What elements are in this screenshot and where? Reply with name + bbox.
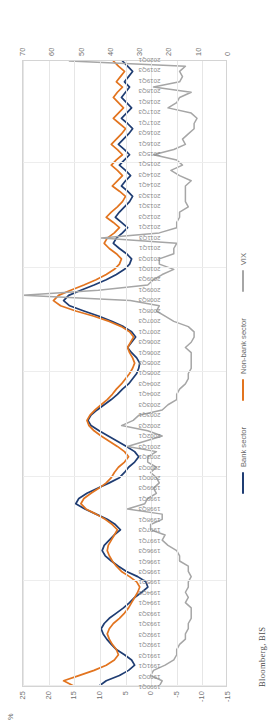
legend-item[interactable]: VIX bbox=[239, 253, 248, 292]
primary-axis-tick-label: 15 bbox=[69, 691, 78, 699]
primary-axis-tick-label: 10 bbox=[94, 691, 103, 699]
gridline-vertical bbox=[23, 476, 226, 477]
chart-figure: % 2520151050-5-10-15 1990Q11990Q31991Q11… bbox=[0, 0, 269, 723]
secondary-axis-tick-label: 60 bbox=[47, 48, 56, 56]
legend-swatch-icon bbox=[242, 270, 244, 292]
series-line-non-bank-sector bbox=[53, 61, 139, 686]
gridline-horizontal bbox=[100, 61, 101, 686]
gridline-horizontal bbox=[202, 61, 203, 686]
secondary-axis-tick-label: 0 bbox=[223, 52, 232, 56]
primary-axis-tick-label: 5 bbox=[120, 691, 129, 695]
legend-label: Bank sector bbox=[239, 427, 248, 467]
series-line-bank-sector bbox=[64, 61, 148, 686]
primary-axis-tick-label: 0 bbox=[146, 691, 155, 695]
primary-y-axis: 2520151050-5-10-15 bbox=[22, 687, 227, 723]
plot-area bbox=[22, 60, 227, 687]
gridline-vertical bbox=[23, 685, 226, 686]
primary-axis-tick-label: -10 bbox=[197, 691, 206, 702]
gridline-horizontal bbox=[23, 61, 24, 686]
secondary-axis-tick-label: 20 bbox=[164, 48, 173, 56]
gridline-vertical bbox=[23, 163, 226, 164]
gridline-horizontal bbox=[177, 61, 178, 686]
series-lines bbox=[23, 61, 226, 686]
secondary-y-axis: 706050403020100 bbox=[22, 20, 227, 60]
plot-inner bbox=[23, 61, 226, 686]
percent-axis-symbol: % bbox=[6, 713, 15, 720]
gridline-horizontal bbox=[49, 61, 50, 686]
legend-item[interactable]: Bank sector bbox=[239, 427, 248, 494]
gridline-horizontal bbox=[126, 61, 127, 686]
gridline-horizontal bbox=[151, 61, 152, 686]
chart-legend: Bank sectorNon-bank sectorVIX bbox=[232, 60, 254, 687]
secondary-axis-tick-label: 50 bbox=[76, 48, 85, 56]
primary-axis-tick-label: -5 bbox=[171, 691, 180, 698]
secondary-axis-tick-label: 40 bbox=[105, 48, 114, 56]
primary-axis-tick-label: 25 bbox=[18, 691, 27, 699]
secondary-axis-tick-label: 10 bbox=[193, 48, 202, 56]
primary-axis-tick-label: -15 bbox=[223, 691, 232, 702]
secondary-axis-tick-label: 70 bbox=[18, 48, 27, 56]
secondary-axis-tick-label: 30 bbox=[135, 48, 144, 56]
gridline-vertical bbox=[23, 267, 226, 268]
gridline-vertical bbox=[23, 372, 226, 373]
legend-label: Non-bank sector bbox=[239, 318, 248, 374]
legend-label: VIX bbox=[239, 253, 248, 265]
primary-axis-tick-label: 20 bbox=[43, 691, 52, 699]
legend-swatch-icon bbox=[242, 472, 244, 494]
gridline-horizontal bbox=[74, 61, 75, 686]
gridline-vertical bbox=[23, 581, 226, 582]
source-note: Bloomberg, BIS bbox=[257, 627, 267, 687]
legend-item[interactable]: Non-bank sector bbox=[239, 318, 248, 401]
legend-swatch-icon bbox=[242, 379, 244, 401]
